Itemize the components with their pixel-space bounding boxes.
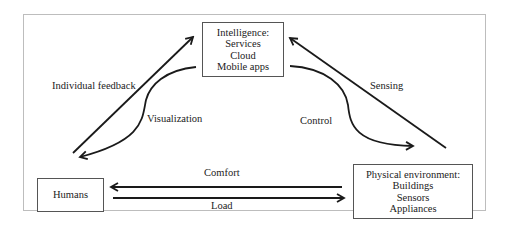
sensing-label: Sensing — [370, 80, 403, 91]
intelligence-line: Mobile apps — [203, 61, 283, 73]
physical-line: Appliances — [354, 203, 472, 215]
control-label: Control — [300, 115, 332, 126]
physical-line: Sensors — [354, 192, 472, 204]
visualization-label: Visualization — [147, 113, 202, 124]
physical-title: Physical environment: — [354, 169, 472, 181]
physical-line: Buildings — [354, 180, 472, 192]
physical-environment-node: Physical environment: Buildings Sensors … — [353, 164, 473, 219]
intelligence-title: Intelligence: — [203, 27, 283, 39]
individual-feedback-label: Individual feedback — [52, 80, 136, 91]
intelligence-line: Cloud — [203, 50, 283, 62]
individual-feedback-arrow — [73, 37, 193, 153]
comfort-label: Comfort — [204, 167, 240, 178]
humans-title: Humans — [38, 189, 103, 201]
intelligence-line: Services — [203, 38, 283, 50]
control-arrow — [290, 66, 413, 146]
sensing-arrow — [290, 38, 446, 148]
intelligence-node: Intelligence: Services Cloud Mobile apps — [202, 22, 284, 77]
load-label: Load — [211, 200, 233, 211]
humans-node: Humans — [37, 178, 104, 212]
